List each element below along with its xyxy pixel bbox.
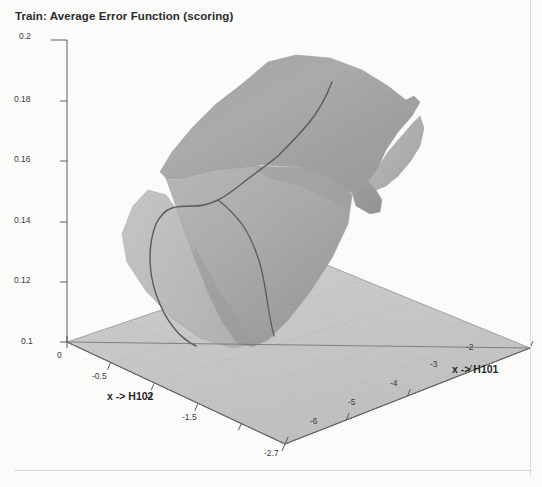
x-axis-title: x -> H102 bbox=[107, 390, 153, 402]
window-border-bottom bbox=[14, 470, 532, 471]
window-border-right bbox=[530, 0, 531, 476]
y-axis-title: x -> H101 bbox=[452, 363, 498, 375]
z-tick-0: 0.2 bbox=[19, 31, 31, 41]
z-axis bbox=[51, 40, 67, 342]
z-tick-1: 0.18 bbox=[14, 94, 31, 104]
plot-window: Train: Average Error Function (scoring) bbox=[0, 0, 542, 487]
surface-plot-canvas bbox=[0, 0, 542, 487]
z-tick-4: 0.12 bbox=[14, 275, 31, 285]
x-tick-4: -2.7 bbox=[264, 448, 279, 458]
x-tick-3: -1.5 bbox=[182, 412, 197, 422]
z-tick-2: 0.16 bbox=[14, 154, 31, 164]
y-tick-3: -5 bbox=[348, 397, 356, 407]
y-tick-4: -6 bbox=[310, 416, 318, 426]
y-tick-1: -3 bbox=[430, 359, 438, 369]
x-tick-1: -0.5 bbox=[92, 371, 107, 381]
y-tick-2: -4 bbox=[390, 378, 398, 388]
z-tick-5: 0.1 bbox=[21, 336, 33, 346]
z-tick-3: 0.14 bbox=[14, 215, 31, 225]
x-tick-0: 0 bbox=[57, 350, 62, 360]
y-tick-0: -2 bbox=[466, 342, 474, 352]
